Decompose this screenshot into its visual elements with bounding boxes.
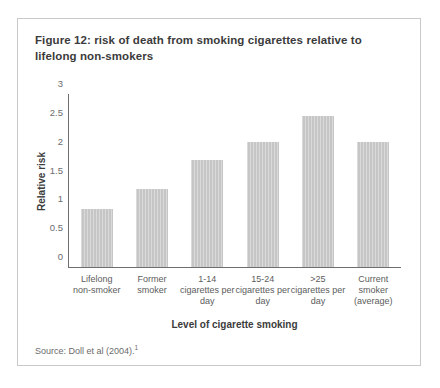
figure-card: Figure 12: risk of death from smoking ci… xyxy=(17,18,421,366)
x-tick-label-line: (average) xyxy=(345,296,401,307)
x-tick-label-line: >25 xyxy=(290,274,346,285)
y-tick-label: 2.5 xyxy=(50,106,63,117)
bar xyxy=(357,142,389,267)
source-footnote-marker: 1 xyxy=(135,344,139,351)
x-tick-label: Formersmoker xyxy=(124,274,180,296)
x-tick-label-line: Lifelong xyxy=(69,274,125,285)
x-tick-label-line: 15-24 xyxy=(235,274,291,285)
x-tick-label-line: Current xyxy=(345,274,401,285)
figure-title: Figure 12: risk of death from smoking ci… xyxy=(35,32,405,64)
bar xyxy=(302,116,334,267)
y-tick-label: 1 xyxy=(58,193,63,204)
x-tick-label-line: cigarettes per xyxy=(290,285,346,296)
x-tick-label-line: cigarettes per xyxy=(235,285,291,296)
source-note-text: Source: Doll et al (2004). xyxy=(35,346,135,356)
x-tick-label-line: non-smoker xyxy=(69,285,125,296)
x-tick-label-line: day xyxy=(235,296,291,307)
x-tick-label-line: day xyxy=(290,296,346,307)
x-tick-label: 15-24cigarettes perday xyxy=(235,274,291,307)
plot-area: 32.521.510.50 Lifelongnon-smokerFormersm… xyxy=(68,94,401,268)
x-tick-label-line: day xyxy=(179,296,235,307)
y-tick-label: 0 xyxy=(58,251,63,262)
bar xyxy=(191,160,223,267)
y-tick-label: 2 xyxy=(58,135,63,146)
y-tick-label: 0.5 xyxy=(50,222,63,233)
x-tick-label: Lifelongnon-smoker xyxy=(69,274,125,296)
x-tick-label-line: smoker xyxy=(124,285,180,296)
bar xyxy=(81,209,113,267)
bar-series xyxy=(69,94,401,267)
y-tick-label: 3 xyxy=(58,78,63,89)
y-tick-label: 1.5 xyxy=(50,164,63,175)
bar xyxy=(136,189,168,267)
x-tick-label-line: smoker xyxy=(345,285,401,296)
x-tick-label-line: Former xyxy=(124,274,180,285)
x-tick-label: >25cigarettes perday xyxy=(290,274,346,307)
x-tick-label: 1-14cigarettes perday xyxy=(179,274,235,307)
source-note: Source: Doll et al (2004).1 xyxy=(35,344,138,356)
x-tick-label-line: 1-14 xyxy=(179,274,235,285)
y-axis-title-label: Relative risk xyxy=(36,152,47,211)
y-axis-title: Relative risk xyxy=(34,94,48,268)
x-tick-label: Currentsmoker(average) xyxy=(345,274,401,307)
x-axis-title: Level of cigarette smoking xyxy=(68,319,401,330)
x-tick-label-line: cigarettes per xyxy=(179,285,235,296)
bar xyxy=(247,142,279,267)
